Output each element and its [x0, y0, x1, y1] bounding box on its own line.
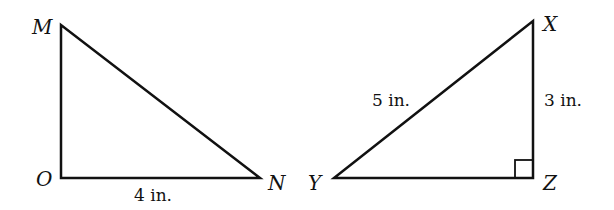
vertex-label-o: O [36, 167, 52, 191]
geometry-figure: M O N 4 in. X Y Z 5 in. 3 in. [0, 0, 614, 210]
side-label-xz: 3 in. [544, 90, 582, 110]
side-label-xy: 5 in. [372, 90, 410, 110]
side-label-on: 4 in. [134, 185, 172, 205]
triangle-xyz [334, 21, 533, 178]
vertex-label-x: X [541, 12, 558, 36]
vertex-label-y: Y [308, 171, 323, 195]
triangles-svg: M O N 4 in. X Y Z 5 in. 3 in. [0, 0, 614, 210]
triangle-mon [61, 25, 260, 178]
vertex-label-n: N [267, 171, 287, 195]
vertex-label-m: M [31, 15, 53, 39]
right-angle-marker [515, 160, 533, 178]
vertex-label-z: Z [542, 171, 558, 195]
